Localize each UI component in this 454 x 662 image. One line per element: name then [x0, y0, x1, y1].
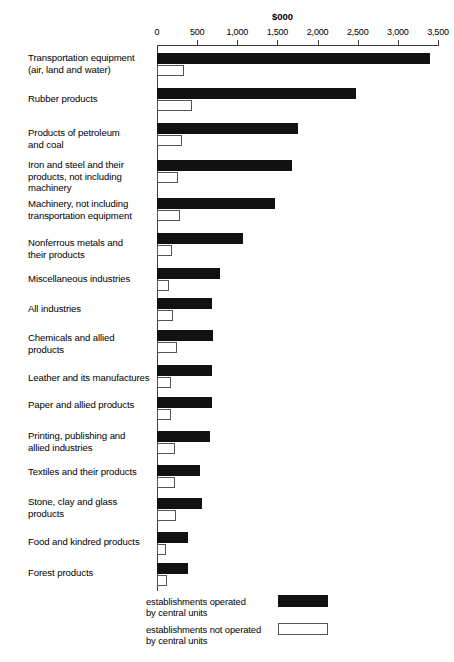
category-label: All industries	[28, 303, 81, 315]
x-tick-label: 0	[155, 27, 160, 37]
bar-not-operated	[157, 477, 175, 488]
bar-operated	[157, 330, 213, 341]
x-tick-label: 2,500	[347, 27, 369, 37]
bar-not-operated	[157, 510, 176, 521]
bar-operated	[157, 532, 188, 543]
bar-operated	[157, 397, 212, 408]
bar-not-operated	[157, 172, 178, 183]
category-label: Machinery, not including transportation …	[28, 198, 132, 221]
x-axis-line	[157, 45, 438, 46]
category-label: Miscellaneous industries	[28, 273, 130, 285]
category-label: Transportation equipment (air, land and …	[28, 52, 135, 75]
category-label: Forest products	[28, 567, 93, 579]
bar-not-operated	[157, 443, 175, 454]
bar-operated	[157, 431, 210, 442]
bar-operated	[157, 53, 430, 64]
bar-not-operated	[157, 280, 169, 291]
bar-not-operated	[157, 409, 171, 420]
axis-title: $000	[272, 11, 293, 22]
bar-operated	[157, 465, 200, 476]
category-label: Iron and steel and their products, not i…	[28, 159, 124, 194]
bar-operated	[157, 563, 188, 574]
x-tick-label: 2,000	[307, 27, 329, 37]
bar-not-operated	[157, 575, 167, 586]
legend-label: establishments operated by central units	[146, 596, 246, 619]
bar-operated	[157, 123, 298, 134]
legend-swatch-light	[278, 623, 328, 635]
category-label: Stone, clay and glass products	[28, 496, 117, 519]
bar-operated	[157, 498, 202, 509]
bar-not-operated	[157, 135, 182, 146]
bar-not-operated	[157, 377, 171, 388]
bar-operated	[157, 365, 212, 376]
category-label: Food and kindred products	[28, 536, 140, 548]
bar-not-operated	[157, 310, 173, 321]
legend-label: establishments not operated by central u…	[146, 624, 261, 647]
category-label: Leather and its manufactures	[28, 372, 149, 384]
category-label: Rubber products	[28, 93, 97, 105]
bar-not-operated	[157, 65, 184, 76]
category-label: Paper and allied products	[28, 399, 134, 411]
bar-operated	[157, 233, 243, 244]
x-tick-label: 1,500	[267, 27, 289, 37]
bar-operated	[157, 198, 275, 209]
category-label: Nonferrous metals and their products	[28, 237, 123, 260]
bar-not-operated	[157, 342, 177, 353]
x-tick-mark	[438, 40, 439, 46]
bar-operated	[157, 298, 212, 309]
category-label: Printing, publishing and allied industri…	[28, 430, 125, 453]
x-tick-label: 1,000	[227, 27, 249, 37]
bar-not-operated	[157, 245, 172, 256]
legend-swatch-dark	[278, 595, 328, 607]
bar-operated	[157, 88, 356, 99]
bar-chart: $000 05001,0001,5002,0002,5003,0003,500 …	[0, 0, 454, 662]
category-label: Chemicals and allied products	[28, 332, 115, 355]
bar-operated	[157, 160, 292, 171]
x-tick-label: 500	[190, 27, 204, 37]
category-label: Products of petroleum and coal	[28, 127, 120, 150]
category-label: Textiles and their products	[28, 466, 137, 478]
bar-operated	[157, 268, 220, 279]
x-tick-label: 3,000	[387, 27, 409, 37]
bar-not-operated	[157, 210, 180, 221]
bar-not-operated	[157, 100, 192, 111]
bar-not-operated	[157, 544, 166, 555]
x-tick-label: 3,500	[427, 27, 449, 37]
